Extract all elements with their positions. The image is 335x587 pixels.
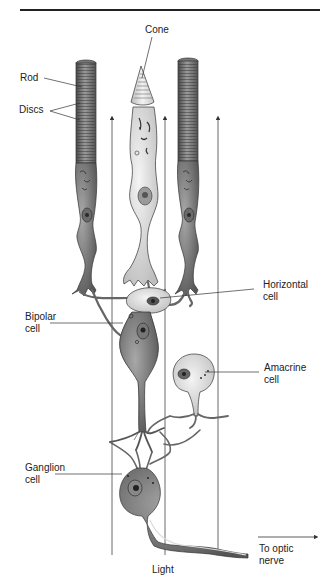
cone-cell bbox=[123, 66, 158, 286]
label-bipolar-cell: Bipolar cell bbox=[25, 311, 56, 335]
label-amacrine-cell: Amacrine cell bbox=[264, 362, 306, 386]
label-horizontal-cell: Horizontal cell bbox=[263, 279, 308, 303]
label-rod: Rod bbox=[20, 72, 38, 84]
label-ganglion-cell: Ganglion cell bbox=[25, 462, 65, 486]
label-cone: Cone bbox=[145, 24, 169, 36]
horizontal-cell-leader bbox=[160, 289, 254, 298]
discs-leader-1 bbox=[50, 103, 80, 111]
ganglion-cell bbox=[120, 468, 248, 558]
discs-leader-2 bbox=[50, 111, 80, 120]
cone-leader bbox=[142, 37, 152, 78]
label-optic-nerve: To optic nerve bbox=[259, 543, 293, 567]
rod-right bbox=[175, 58, 199, 296]
label-discs: Discs bbox=[19, 104, 43, 116]
rod-left bbox=[72, 60, 97, 296]
amacrine-cell bbox=[148, 354, 228, 432]
synaptic-processes bbox=[110, 430, 200, 470]
label-light: Light bbox=[152, 564, 174, 576]
